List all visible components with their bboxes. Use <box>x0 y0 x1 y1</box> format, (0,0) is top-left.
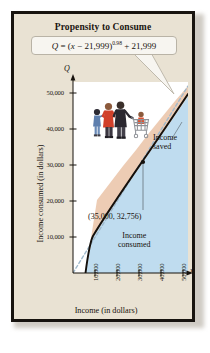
woman-figure <box>103 103 115 138</box>
equation-offset: 21,999 <box>84 41 109 51</box>
y-tick-label-50000: 50,000 <box>30 89 64 96</box>
income-consumed-line-2: consumed <box>118 241 150 250</box>
x-tick-label-50000: 50,000 <box>180 263 187 281</box>
equation-plus: + <box>124 41 129 51</box>
income-saved-line-2: saved <box>153 143 177 152</box>
equation-lhs: Q <box>52 41 59 51</box>
equation-exponent: 0.98 <box>112 40 122 46</box>
child-figure <box>93 109 104 136</box>
figure-page: Q x 10,000 20,000 30,000 40,000 50,000 1… <box>0 0 210 353</box>
y-axis-symbol: Q <box>64 64 70 73</box>
income-saved-annotation: Income saved <box>153 134 177 151</box>
figure-frame: Q x 10,000 20,000 30,000 40,000 50,000 1… <box>11 11 195 322</box>
equation-variable: x <box>71 41 75 51</box>
equation-constant: 21,999 <box>132 41 157 51</box>
equation-callout: Q = (x − 21,999)0.98 + 21,999 <box>31 36 177 55</box>
equation-text: Q = (x − 21,999)0.98 + 21,999 <box>52 40 157 51</box>
figure-title: Propensity to Consume <box>14 22 192 32</box>
x-tick-label-30000: 30,000 <box>136 263 143 281</box>
x-tick-label-20000: 20,000 <box>114 263 121 281</box>
family-shopping-illustration <box>90 100 156 148</box>
x-axis-title: Income (in dollars) <box>14 306 198 315</box>
equation-equals: = <box>60 41 65 51</box>
man-figure <box>114 101 133 138</box>
y-axis-title: Income consumed (in dollars) <box>36 119 45 269</box>
callout-tail <box>130 50 190 96</box>
x-tick-label-10000: 10,000 <box>92 263 99 281</box>
annotated-point-label: (35,000, 32,756) <box>88 212 141 221</box>
y-axis-arrow <box>71 74 76 81</box>
x-axis-symbol: x <box>190 266 194 275</box>
x-tick-label-40000: 40,000 <box>158 263 165 281</box>
equation-minus: − <box>77 41 82 51</box>
annotated-point-marker <box>141 160 145 164</box>
income-consumed-annotation: Income consumed <box>118 232 150 249</box>
